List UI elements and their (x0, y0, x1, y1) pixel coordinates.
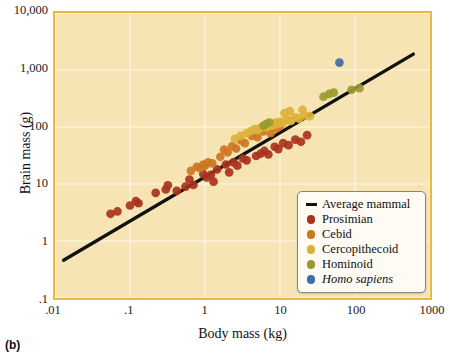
x-tick-label: .1 (124, 303, 133, 318)
legend-item-cercopithecoid[interactable]: Cercopithecoid (305, 242, 419, 257)
legend-dot-swatch (305, 259, 317, 271)
x-axis-title: Body mass (kg) (53, 326, 432, 342)
legend-dot-swatch (305, 244, 317, 256)
data-point-cercopithecoid (298, 106, 307, 115)
data-point-prosimian (222, 160, 231, 169)
figure-panel: .11101001,00010,000 .01.11101001000 Body… (0, 0, 450, 358)
data-point-prosimian (233, 161, 242, 170)
data-point-cercopithecoid (285, 107, 294, 116)
data-point-prosimian (172, 186, 181, 195)
data-point-prosimian (189, 181, 198, 190)
x-tick-label: 1 (201, 303, 207, 318)
legend-dot-swatch (305, 214, 317, 226)
legend-line-swatch (305, 199, 317, 211)
legend-item-cebid[interactable]: Cebid (305, 227, 419, 242)
data-point-cebid (232, 144, 241, 153)
legend-item-average-mammal[interactable]: Average mammal (305, 197, 419, 212)
y-tick-label: 10,000 (0, 3, 48, 18)
x-tick-label: 1000 (420, 303, 445, 318)
data-point-hominoid (355, 84, 364, 93)
y-tick-label: 1 (0, 234, 48, 249)
y-tick-label: 1,000 (0, 61, 48, 76)
data-point-prosimian (264, 150, 273, 159)
legend-dot-swatch (305, 274, 317, 286)
dot-swatch-icon (307, 275, 316, 284)
data-point-hominoid (329, 88, 338, 97)
data-point-prosimian (297, 137, 306, 146)
data-point-hominoid (347, 85, 356, 94)
legend-item-label: Cebid (322, 227, 352, 242)
dot-swatch-icon (307, 245, 316, 254)
data-point-prosimian (242, 156, 251, 165)
x-tick-label: 100 (347, 303, 366, 318)
data-point-cercopithecoid (305, 112, 314, 121)
data-point-prosimian (225, 168, 234, 177)
legend-dot-swatch (305, 229, 317, 241)
data-point-hominoid (265, 118, 274, 127)
legend-item-hominoid[interactable]: Hominoid (305, 257, 419, 272)
data-point-cebid (208, 159, 217, 168)
legend-item-prosimian[interactable]: Prosimian (305, 212, 419, 227)
legend-item-homo-sapiens[interactable]: Homo sapiens (305, 272, 419, 287)
legend-item-label: Homo sapiens (322, 272, 393, 287)
panel-label: (b) (5, 338, 20, 352)
y-axis-title: Brain mass (g) (18, 83, 34, 223)
x-tick-label: .01 (45, 303, 61, 318)
dot-swatch-icon (307, 230, 316, 239)
dot-swatch-icon (307, 215, 316, 224)
x-tick-label: 10 (274, 303, 287, 318)
data-point-prosimian (113, 207, 122, 216)
data-point-cebid (241, 139, 250, 148)
data-point-prosimian (209, 177, 218, 186)
legend-item-label: Prosimian (322, 212, 373, 227)
data-point-prosimian (151, 188, 160, 197)
line-swatch-icon (306, 203, 317, 206)
legend-item-label: Average mammal (322, 197, 410, 212)
legend-item-label: Hominoid (322, 257, 373, 272)
chart-legend: Average mammalProsimianCebidCercopitheco… (297, 191, 426, 293)
y-tick-label: .1 (0, 292, 48, 307)
dot-swatch-icon (307, 260, 316, 269)
data-point-prosimian (134, 199, 143, 208)
data-point-prosimian (164, 181, 173, 190)
data-point-prosimian (284, 141, 293, 150)
data-point-homo-sapiens (335, 58, 344, 67)
data-point-prosimian (303, 131, 312, 140)
legend-item-label: Cercopithecoid (322, 242, 398, 257)
